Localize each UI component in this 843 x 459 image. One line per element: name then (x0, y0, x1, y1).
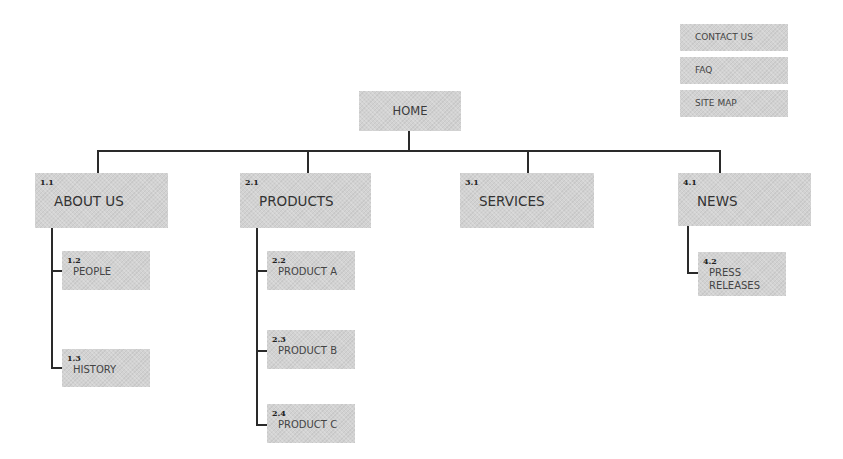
node-products[interactable]: 2.1 PRODUCTS (240, 173, 371, 228)
node-label: PRODUCT C (278, 418, 337, 431)
connector-news-children (687, 226, 689, 274)
connector-history (51, 367, 62, 369)
utility-contact-us[interactable]: CONTACT US (680, 24, 788, 51)
connector-people (51, 270, 62, 272)
connector-services-down (527, 150, 529, 173)
utility-label: FAQ (695, 65, 712, 75)
connector-about-children (51, 228, 53, 369)
node-label: PRODUCTS (259, 193, 334, 209)
node-label: PRODUCT B (278, 344, 337, 357)
node-label: PRODUCT A (278, 265, 337, 278)
node-number: 1.2 (67, 255, 81, 265)
connector-about-down (97, 150, 99, 173)
node-news[interactable]: 4.1 NEWS (678, 173, 811, 226)
node-label-line2: RELEASES (709, 280, 760, 291)
node-product-a[interactable]: 2.2 PRODUCT A (267, 251, 355, 290)
utility-faq[interactable]: FAQ (680, 57, 788, 84)
node-label: PRESS RELEASES (709, 266, 760, 292)
node-label: PEOPLE (73, 265, 111, 278)
node-about-us[interactable]: 1.1 ABOUT US (35, 173, 168, 228)
node-label: SERVICES (479, 193, 544, 209)
connector-top-horizontal (97, 150, 721, 152)
node-number: 4.1 (683, 177, 697, 187)
node-product-b[interactable]: 2.3 PRODUCT B (267, 330, 355, 369)
node-number: 2.2 (272, 255, 286, 265)
connector-news-down (719, 150, 721, 173)
node-people[interactable]: 1.2 PEOPLE (62, 251, 150, 290)
node-number: 2.3 (272, 334, 286, 344)
utility-site-map[interactable]: SITE MAP (680, 90, 788, 117)
node-number: 3.1 (465, 177, 479, 187)
connector-press-releases (687, 272, 698, 274)
utility-label: SITE MAP (695, 98, 737, 108)
node-number: 1.3 (67, 353, 81, 363)
node-label-line1: PRESS (709, 267, 741, 278)
node-label: NEWS (697, 193, 738, 209)
node-label: ABOUT US (54, 193, 124, 209)
node-number: 1.1 (40, 177, 54, 187)
connector-product-a (256, 270, 267, 272)
node-number: 2.1 (245, 177, 259, 187)
node-services[interactable]: 3.1 SERVICES (460, 173, 594, 228)
node-home[interactable]: HOME (359, 91, 461, 131)
node-label: HISTORY (73, 363, 116, 376)
connector-home-down (408, 131, 410, 152)
utility-label: CONTACT US (695, 32, 753, 42)
node-label: HOME (359, 104, 461, 118)
node-number: 4.2 (703, 256, 717, 266)
connector-products-children (256, 228, 258, 426)
connector-product-b (256, 350, 267, 352)
node-history[interactable]: 1.3 HISTORY (62, 349, 150, 387)
connector-product-c (256, 424, 267, 426)
node-press-releases[interactable]: 4.2 PRESS RELEASES (698, 252, 786, 296)
connector-products-down (307, 150, 309, 173)
node-product-c[interactable]: 2.4 PRODUCT C (267, 404, 355, 443)
node-number: 2.4 (272, 408, 286, 418)
